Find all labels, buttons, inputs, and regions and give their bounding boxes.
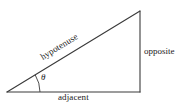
hypotenuse-line bbox=[7, 11, 140, 92]
theta-angle-arc bbox=[35, 75, 40, 92]
adjacent-label: adjacent bbox=[58, 93, 89, 102]
theta-angle-label: θ bbox=[41, 73, 45, 82]
opposite-label: opposite bbox=[144, 47, 175, 56]
trigonometry-diagram: hypotenuse opposite adjacent θ bbox=[0, 0, 180, 107]
